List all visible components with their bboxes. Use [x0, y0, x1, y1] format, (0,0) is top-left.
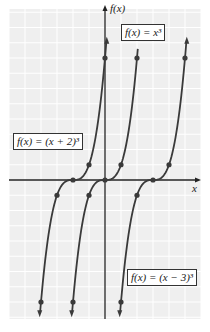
- x-axis-label: x: [192, 182, 197, 194]
- data-point: [134, 55, 139, 60]
- y-axis-label: f(x): [110, 2, 125, 14]
- data-point: [70, 299, 75, 304]
- data-point: [54, 193, 59, 198]
- data-point: [150, 177, 155, 182]
- data-point: [118, 299, 123, 304]
- data-point: [102, 55, 107, 60]
- data-point: [102, 177, 107, 182]
- data-point: [118, 162, 123, 167]
- label-shift-left: f(x) = (x + 2)³: [13, 133, 83, 150]
- label-shift-right: f(x) = (x − 3)³: [127, 269, 197, 286]
- data-point: [182, 55, 187, 60]
- y-axis-arrow-icon: [103, 5, 108, 11]
- data-point: [86, 193, 91, 198]
- label-cube: f(x) = x³: [121, 24, 165, 41]
- data-point: [166, 162, 171, 167]
- data-point: [86, 162, 91, 167]
- data-point: [70, 177, 75, 182]
- data-point: [38, 299, 43, 304]
- data-point: [134, 193, 139, 198]
